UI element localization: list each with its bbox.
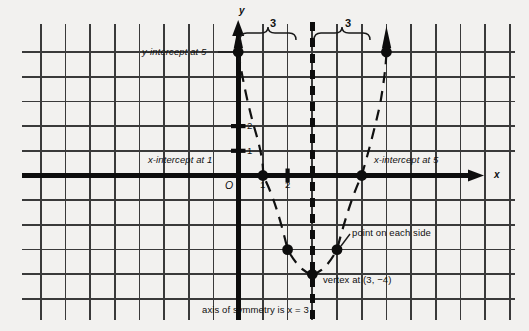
tick-label-x-2: 2 bbox=[285, 180, 290, 190]
brace-label-right: 3 bbox=[345, 18, 351, 29]
point-upper-right bbox=[381, 47, 392, 58]
point-x-intercept-5 bbox=[356, 170, 367, 181]
y-intercept-annotation: y-intercept at 5 bbox=[142, 47, 206, 57]
point-vertex bbox=[307, 269, 318, 280]
tick-label-y-1: 1 bbox=[247, 146, 252, 156]
coordinate-graph-figure bbox=[0, 0, 529, 331]
origin-label: O bbox=[225, 180, 233, 191]
point-each-side-annotation: point on each side bbox=[352, 228, 431, 238]
tick-label-y-2: 2 bbox=[247, 121, 252, 131]
axis-of-symmetry-annotation: axis of symmetry is x = 3 bbox=[202, 305, 309, 315]
x-intercept-left-annotation: x-intercept at 1 bbox=[148, 155, 212, 165]
tick-label-x-1: 1 bbox=[260, 180, 265, 190]
x-axis-label: x bbox=[494, 170, 500, 180]
point-y-intercept bbox=[233, 47, 244, 58]
point-left-side bbox=[282, 244, 293, 255]
y-axis-label: y bbox=[239, 6, 245, 16]
brace-label-left: 3 bbox=[270, 18, 276, 29]
x-intercept-right-annotation: x-intercept at 5 bbox=[374, 155, 438, 165]
vertex-annotation: vertex at (3, −4) bbox=[323, 275, 392, 285]
figure-background bbox=[0, 0, 529, 331]
